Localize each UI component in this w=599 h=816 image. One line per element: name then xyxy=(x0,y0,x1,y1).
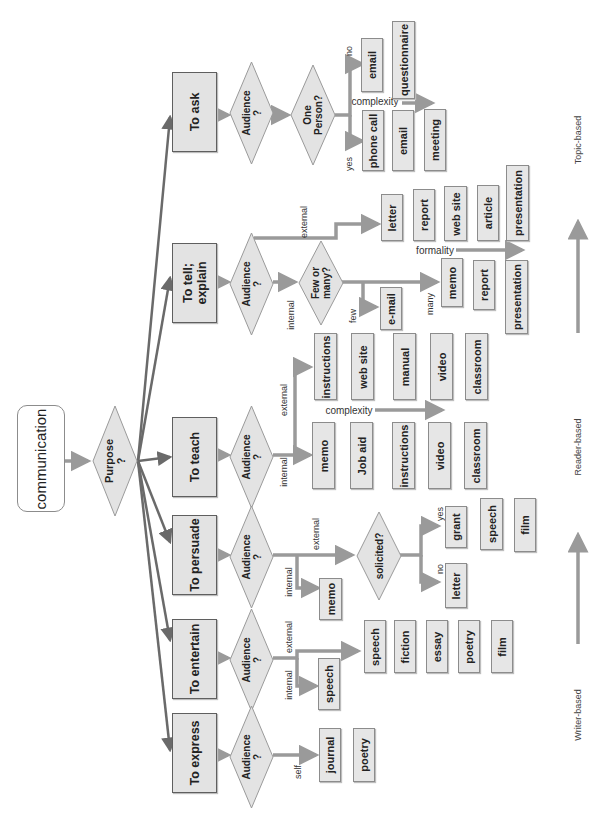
output-presentation: presentation xyxy=(506,165,529,241)
output-web-site: web site xyxy=(444,186,467,241)
output-presentation: presentation xyxy=(505,260,528,334)
branch-label-internal: internal xyxy=(279,457,289,487)
audience-decision-tell: Audience ? xyxy=(229,232,274,336)
branch-label-self: self xyxy=(293,765,303,779)
output-email: email xyxy=(361,38,383,92)
output-e-mail: e-mail xyxy=(380,287,402,330)
output-manual: manual xyxy=(393,333,416,400)
axis-label-formality: formality xyxy=(416,245,454,256)
output-memo: memo xyxy=(441,258,463,307)
output-poetry: poetry xyxy=(353,728,375,782)
one-person-decision: One Person? xyxy=(290,64,336,166)
audience-decision-entertain: Audience ? xyxy=(229,608,274,712)
branch-label-internal: internal xyxy=(284,670,294,700)
output-report: report xyxy=(473,260,495,310)
audience-decision-teach: Audience ? xyxy=(229,405,274,509)
purpose-to-persuade: To persuade xyxy=(172,515,217,595)
branch-label-many: many xyxy=(425,293,435,315)
start-node-communication: communication xyxy=(17,405,65,512)
output-film: film xyxy=(514,498,536,552)
branch-label-few: few xyxy=(348,309,358,323)
output-essay: essay xyxy=(426,620,448,673)
audience-decision-ask: Audience ? xyxy=(229,61,274,165)
branch-label-no: no xyxy=(435,564,445,574)
output-article: article xyxy=(477,185,499,241)
output-poetry: poetry xyxy=(458,620,480,673)
output-fiction: fiction xyxy=(394,620,416,673)
purpose-decision: Purpose ? xyxy=(92,405,138,517)
output-speech: speech xyxy=(318,658,340,710)
output-phone-call: phone call xyxy=(362,110,384,171)
output-email: email xyxy=(392,110,414,171)
output-meeting: meeting xyxy=(424,109,446,171)
few-or-many-decision: Few or many? xyxy=(298,240,344,326)
branch-label-no: no xyxy=(344,46,354,56)
output-memo: memo xyxy=(319,578,342,620)
purpose-to-tell-explain: To tell; explain xyxy=(172,243,217,323)
branch-label-external: external xyxy=(299,206,309,238)
branch-label-yes: yes xyxy=(435,507,445,521)
branch-label-yes: yes xyxy=(344,157,354,171)
purpose-to-ask: To ask xyxy=(172,72,217,152)
output-instructions: instructions xyxy=(314,333,337,400)
output-classroom: classroom xyxy=(465,333,488,400)
output-journal: journal xyxy=(319,728,341,782)
audience-decision-express: Audience ? xyxy=(229,705,274,809)
branch-label-internal: internal xyxy=(286,300,296,330)
output-letter: letter xyxy=(381,194,403,241)
scale-label-writer-based: Writer-based xyxy=(573,689,583,740)
branch-label-external: external xyxy=(284,621,294,653)
output-instructions: instructions xyxy=(392,422,415,489)
purpose-to-entertain: To entertain xyxy=(172,619,217,699)
branch-label-external: external xyxy=(279,384,289,416)
scale-label-topic-based: Topic-based xyxy=(573,116,583,165)
output-video: video xyxy=(428,422,451,489)
output-classroom: classroom xyxy=(464,422,487,489)
communication-flowchart: communication Purpose ? To ask To tell; … xyxy=(0,0,599,816)
output-job-aid: Job aid xyxy=(350,422,373,489)
branch-label-external: external xyxy=(311,518,321,550)
output-report: report xyxy=(413,189,435,241)
output-web-site: web site xyxy=(351,333,374,400)
branch-label-internal: internal xyxy=(284,567,294,597)
output-film: film xyxy=(491,620,513,673)
output-letter: letter xyxy=(445,563,467,608)
purpose-to-express: To express xyxy=(172,713,217,793)
output-memo: memo xyxy=(312,422,335,489)
axis-label-complexity: complexity xyxy=(325,405,372,416)
output-video: video xyxy=(430,333,453,400)
purpose-to-teach: To teach xyxy=(172,417,217,497)
scale-label-reader-based: Reader-based xyxy=(573,418,583,475)
output-speech: speech xyxy=(364,620,386,673)
output-grant: grant xyxy=(445,506,467,548)
solicited-decision: solicited? xyxy=(356,511,402,601)
output-speech: speech xyxy=(480,498,503,550)
output-questionnaire: questionnaire xyxy=(392,21,415,99)
audience-decision-persuade: Audience ? xyxy=(229,505,274,609)
